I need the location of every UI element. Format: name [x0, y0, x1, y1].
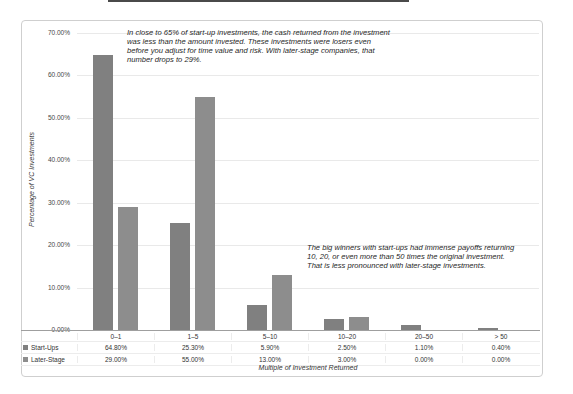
bar-later-stage: [272, 275, 292, 330]
chart-page: Percentage of VC Investments 0.00%10.00%…: [0, 0, 573, 394]
table-value-cell: 0.00%: [385, 356, 462, 363]
category-label: 20–50: [385, 333, 462, 340]
series-row-start-ups: Start-Ups64.80%25.30%5.90%2.50%1.10%0.40…: [21, 342, 540, 354]
gridline: [77, 203, 539, 204]
bar-start-ups: [247, 305, 267, 330]
table-value-cell: 1.10%: [385, 344, 462, 351]
y-axis-title: Percentage of VC Investments: [28, 115, 35, 245]
category-label: 1–5: [154, 333, 231, 340]
bar-start-ups: [324, 319, 344, 330]
gridline: [77, 288, 539, 289]
bar-start-ups: [93, 55, 113, 330]
table-value-cell: 5.90%: [231, 344, 308, 351]
table-value-cell: 25.30%: [154, 344, 231, 351]
bar-later-stage: [349, 317, 369, 330]
bar-start-ups: [170, 223, 190, 330]
legend-label: Start-Ups: [31, 344, 58, 351]
gridline: [77, 75, 539, 76]
x-axis-title: Multiple of Investment Returned: [77, 364, 539, 371]
y-tick-label: 30.00%: [36, 199, 70, 206]
y-tick-label: 10.00%: [36, 284, 70, 291]
legend-label: Later-Stage: [31, 356, 65, 363]
data-table: 0–11–55–1010–2020–50> 50Start-Ups64.80%2…: [21, 330, 540, 366]
legend-marker-icon: [23, 345, 28, 350]
y-tick-label: 60.00%: [36, 71, 70, 78]
legend-marker-icon: [23, 357, 28, 362]
gridline: [77, 160, 539, 161]
table-value-cell: 2.50%: [308, 344, 385, 351]
top-rule: [108, 0, 409, 2]
table-value-cell: 3.00%: [308, 356, 385, 363]
category-label: 10–20: [308, 333, 385, 340]
gridline: [77, 118, 539, 119]
category-label: 0–1: [77, 333, 154, 340]
category-label: 5–10: [231, 333, 308, 340]
table-value-cell: 64.80%: [77, 344, 154, 351]
table-value-cell: 0.40%: [462, 344, 539, 351]
y-tick-label: 50.00%: [36, 114, 70, 121]
annotation-top: In close to 65% of start-up investments,…: [127, 28, 393, 64]
y-tick-label: 40.00%: [36, 156, 70, 163]
annotation-bottom: The big winners with start-ups had immen…: [307, 243, 517, 270]
category-label: > 50: [462, 333, 539, 340]
bar-later-stage: [195, 97, 215, 330]
table-value-cell: 29.00%: [77, 356, 154, 363]
category-row: 0–11–55–1010–2020–50> 50: [21, 331, 540, 342]
bar-later-stage: [118, 207, 138, 330]
table-value-cell: 55.00%: [154, 356, 231, 363]
table-value-cell: 0.00%: [462, 356, 539, 363]
y-tick-label: 20.00%: [36, 241, 70, 248]
legend-entry: Start-Ups: [21, 344, 77, 351]
legend-entry: Later-Stage: [21, 356, 77, 363]
table-value-cell: 13.00%: [231, 356, 308, 363]
y-tick-label: 70.00%: [36, 29, 70, 36]
